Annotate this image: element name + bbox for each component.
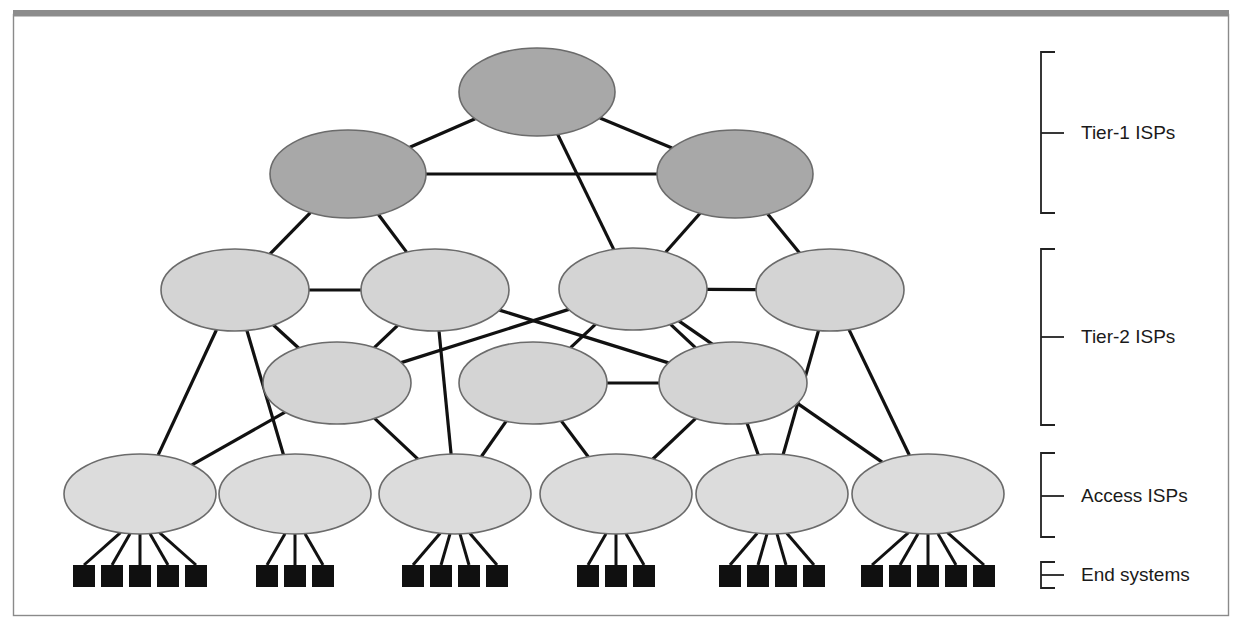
tier2-isp-node[interactable] — [559, 248, 707, 330]
end-system-box[interactable] — [402, 565, 424, 587]
tier1-isp-node[interactable] — [657, 130, 813, 218]
tier2-isp-node[interactable] — [659, 342, 807, 424]
tier2-isp-node[interactable] — [459, 342, 607, 424]
end-system-box[interactable] — [312, 565, 334, 587]
tier-label-access: Access ISPs — [1081, 485, 1188, 506]
end-system-box[interactable] — [486, 565, 508, 587]
end-system-box[interactable] — [185, 565, 207, 587]
access-isp-node[interactable] — [219, 454, 371, 534]
tier2-isp-node[interactable] — [161, 249, 309, 331]
figure-top-bar — [13, 10, 1229, 17]
end-system-box[interactable] — [73, 565, 95, 587]
access-isp-node[interactable] — [852, 454, 1004, 534]
tier2-isp-node[interactable] — [756, 249, 904, 331]
access-isp-node[interactable] — [540, 454, 692, 534]
end-system-box[interactable] — [775, 565, 797, 587]
tier-label-tier1: Tier-1 ISPs — [1081, 122, 1175, 143]
end-system-box[interactable] — [157, 565, 179, 587]
end-system-box[interactable] — [633, 565, 655, 587]
end-system-box[interactable] — [719, 565, 741, 587]
end-system-box[interactable] — [945, 565, 967, 587]
end-system-box[interactable] — [430, 565, 452, 587]
tier-label-tier2: Tier-2 ISPs — [1081, 326, 1175, 347]
end-system-box[interactable] — [861, 565, 883, 587]
end-system-box[interactable] — [129, 565, 151, 587]
figure-root: Tier-1 ISPsTier-2 ISPsAccess ISPsEnd sys… — [0, 0, 1240, 634]
end-system-box[interactable] — [577, 565, 599, 587]
access-isp-node[interactable] — [696, 454, 848, 534]
end-system-box[interactable] — [284, 565, 306, 587]
tier2-isp-node[interactable] — [361, 249, 509, 331]
end-system-box[interactable] — [973, 565, 995, 587]
end-system-box[interactable] — [803, 565, 825, 587]
tier2-isp-node[interactable] — [263, 342, 411, 424]
end-system-box[interactable] — [256, 565, 278, 587]
end-system-box[interactable] — [917, 565, 939, 587]
end-system-box[interactable] — [889, 565, 911, 587]
end-system-box[interactable] — [605, 565, 627, 587]
tier-label-endsys: End systems — [1081, 564, 1190, 585]
tier1-isp-node[interactable] — [459, 48, 615, 136]
access-isp-node[interactable] — [379, 454, 531, 534]
end-system-box[interactable] — [747, 565, 769, 587]
access-isp-node[interactable] — [64, 454, 216, 534]
end-system-box[interactable] — [101, 565, 123, 587]
isp-hierarchy-diagram: Tier-1 ISPsTier-2 ISPsAccess ISPsEnd sys… — [0, 0, 1240, 634]
end-system-box[interactable] — [458, 565, 480, 587]
tier1-isp-node[interactable] — [270, 130, 426, 218]
